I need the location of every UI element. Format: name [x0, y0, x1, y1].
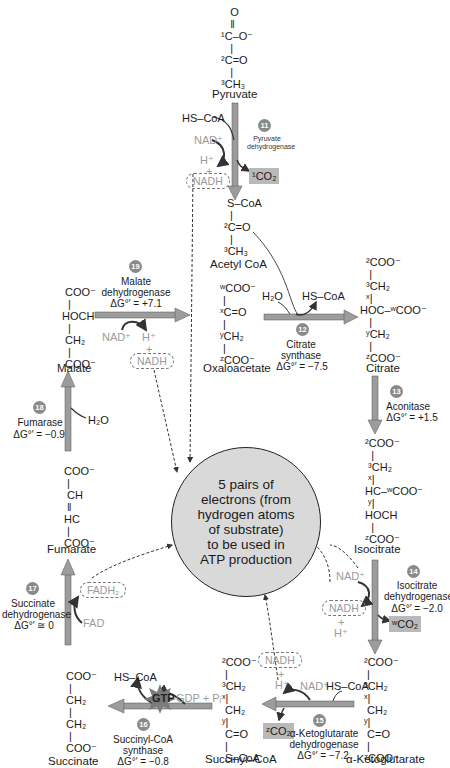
label-pyruvate: Pyruvate: [212, 88, 257, 100]
molecule-fumarate-structure: COO⁻ | CH ‖ HC | COO⁻: [64, 465, 95, 549]
step-badge-19: 19: [129, 260, 142, 273]
cofactor-h2o-18: H₂O: [88, 414, 109, 426]
enzyme-citrate-synthase: Citrate synthase: [272, 339, 330, 361]
gtp-label: GTP: [152, 692, 175, 704]
enzyme-fumarase: Fumarase: [14, 417, 66, 428]
step-badge-18: 18: [33, 401, 46, 414]
step-badge-11: 11: [258, 119, 271, 132]
nadh-step-11: NADH: [186, 173, 230, 189]
nadh-step-19: NADH: [130, 353, 174, 369]
label-malate: Malate: [57, 362, 92, 374]
co2-step-11: ¹CO₂: [249, 168, 279, 184]
arrow-step-12: [264, 302, 358, 324]
cofactor-h-14: H⁺: [334, 627, 348, 639]
co2-step-14: ʷCO₂: [389, 616, 421, 632]
label-succinate: Succinate: [48, 755, 99, 767]
label-acetyl-coa: Acetyl CoA: [210, 258, 267, 270]
enzyme-succinyl-coa-synthase: Succinyl-CoA synthase: [112, 734, 174, 756]
molecule-citrate-structure: ²COO⁻ | ³CH₂ ˣ| HOC–ʷCOO⁻ | ʸCH₂ | ᶻCOO⁻: [360, 256, 427, 364]
label-isocitrate: Isocitrate: [354, 543, 401, 555]
molecule-pyruvate-structure: O ‖ ¹C–O⁻ | ²C=O | ³CH₃: [218, 6, 253, 90]
arrow-step-19: [95, 308, 190, 330]
molecule-acetyl-coa-structure: S–CoA | ²C=O | ³CH₃: [224, 197, 262, 257]
dg-step-19: ΔG°′ = +7.1: [104, 298, 168, 309]
cofactor-nad-15: NAD⁺: [300, 680, 329, 692]
step-badge-12: 12: [296, 323, 309, 336]
arrow-step-15: [262, 690, 354, 720]
fadh2-step-17: FADH₂: [80, 582, 126, 598]
cofactor-nad-19: NAD⁺: [102, 331, 131, 343]
enzyme-succinate-dehydrogenase: Succinate dehydrogenase: [2, 598, 64, 620]
cofactor-hs-coa-15: HS–CoA: [326, 680, 369, 692]
electron-pool-text: 5 pairs of electrons (from hydrogen atom…: [184, 477, 309, 567]
cofactor-fad: FAD: [83, 617, 104, 629]
citric-acid-cycle-diagram: 5 pairs of electrons (from hydrogen atom…: [0, 0, 450, 768]
molecule-oxaloacetate-structure: ʷCOO⁻ | ˣC=O | ʸCH₂ | ᶻCOO⁻: [220, 282, 256, 366]
label-alpha-ketoglutarate: α-Ketoglutarate: [346, 753, 425, 765]
dg-step-13: ΔG°′ = +1.5: [380, 412, 444, 423]
label-succinyl-coa: Succinyl–CoA: [205, 753, 277, 765]
step-badge-17: 17: [26, 582, 39, 595]
arrow-step-17: [61, 559, 82, 645]
arrows-layer: [0, 0, 450, 768]
step-badge-13: 13: [390, 385, 403, 398]
cofactor-h2o-12: H₂O: [262, 290, 283, 302]
molecule-malate-structure: COO⁻ | HOCH | CH₂ | COO⁻: [62, 286, 96, 370]
step-badge-16: 16: [137, 718, 150, 731]
step-badge-14: 14: [407, 565, 420, 578]
dg-step-18: ΔG°′ = −0.9: [8, 429, 70, 440]
cofactor-hs-coa-11: HS–CoA: [182, 112, 225, 124]
molecule-succinate-structure: COO⁻ | CH₂ | CH₂ | COO⁻: [66, 670, 97, 754]
enzyme-pyruvate-dehydrogenase: Pyruvate dehydrogenase: [247, 135, 287, 151]
dg-step-14: ΔG°′ = −2.0: [386, 603, 448, 614]
nadh-step-14: NADH: [322, 600, 366, 616]
label-oxaloacetate: Oxaloacetate: [203, 362, 271, 374]
step-badge-15: 15: [313, 714, 326, 727]
cofactor-h-19: H⁺: [142, 331, 156, 343]
label-fumarate: Fumarate: [47, 543, 96, 555]
dg-step-16: ΔG°′ = −0.8: [112, 756, 174, 767]
cofactor-nad-11: NAD⁺: [194, 134, 223, 146]
molecule-alpha-ketoglutarate-structure: ²COO⁻ | ³CH₂ ˣ| CH₂ ʸ| C=O | ᶻCOO⁻: [364, 656, 399, 764]
cofactor-gdp-pi: GDP + Pᵢ: [176, 692, 221, 704]
cofactor-hs-coa-16: HS–CoA: [114, 671, 157, 683]
dg-step-12: ΔG°′ = −7.5: [270, 361, 334, 372]
cofactor-h-15: H⁺: [275, 679, 289, 691]
dg-step-17: ΔG°′ ≅ 0: [6, 620, 62, 631]
enzyme-isocitrate-dehydrogenase: Isocitrate dehydrogenase: [384, 580, 450, 602]
nadh-step-15: NADH: [258, 652, 302, 668]
electron-pool-circle: 5 pairs of electrons (from hydrogen atom…: [171, 447, 321, 597]
enzyme-malate-dehydrogenase: Malate dehydrogenase: [100, 276, 172, 298]
molecule-succinyl-coa-structure: ²COO⁻ | ³CH₂ ˣ| CH₂ ʸ| C=O | S–CoA: [222, 656, 260, 764]
cofactor-nad-14: NAD⁺: [336, 570, 365, 582]
molecule-isocitrate-structure: ²COO⁻ | ³CH₂ ˣ| HC–ʷCOO⁻ ʸ| HOCH | ᶻCOO⁻: [362, 437, 423, 545]
cofactor-hs-coa-12: HS–CoA: [302, 290, 345, 302]
dg-step-15: ΔG°′ = −7.2: [290, 750, 356, 761]
label-citrate: Citrate: [366, 362, 400, 374]
enzyme-aconitase: Aconitase: [380, 401, 436, 412]
enzyme-alpha-ketoglutarate-dehydrogenase: α-Ketoglutarate dehydrogenase: [286, 728, 362, 750]
